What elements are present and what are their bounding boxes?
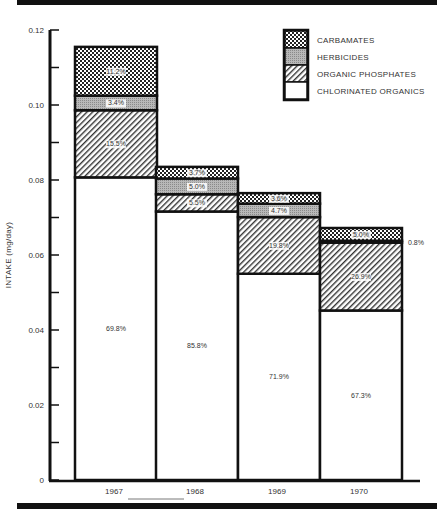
bars-group: 69.8%15.5%3.4%11.2%85.8%5.5%5.0%3.7%71.9…	[75, 47, 424, 480]
bar-1969: 71.9%19.8%4.7%3.6%	[238, 193, 320, 480]
y-tick-label: 0.04	[28, 326, 44, 335]
bottom-border-bar	[17, 503, 437, 509]
legend-swatch-diagonal-hatch	[285, 65, 307, 82]
segment-percent-label: 3.6%	[271, 195, 287, 202]
bar-1967: 69.8%15.5%3.4%11.2%	[75, 47, 157, 480]
segment-percent-label: 26.9%	[351, 273, 371, 280]
y-tick-label: 0.10	[28, 101, 44, 110]
legend-swatch-cross-hatch	[285, 31, 307, 48]
y-tick-label: 0.02	[28, 401, 44, 410]
segment-percent-label: 15.5%	[106, 140, 126, 147]
segment-percent-label: 69.8%	[106, 325, 126, 332]
y-tick-label: 0	[40, 476, 45, 485]
y-tick-label: 0.08	[28, 176, 44, 185]
legend-label: CARBAMATES	[317, 36, 375, 45]
bar-1970: 67.3%26.9%0.8%5.0%	[320, 228, 424, 480]
stacked-bar-chart: 00.020.040.060.080.100.12INTAKE (mg/day)…	[0, 0, 448, 513]
x-axis: 1967196819691970	[49, 481, 420, 499]
segment-percent-label: 5.0%	[189, 183, 205, 190]
x-tick-label: 1967	[105, 487, 123, 496]
segment-percent-label: 19.8%	[269, 242, 289, 249]
legend-swatch-white	[285, 82, 307, 99]
y-tick-label: 0.12	[28, 26, 44, 35]
legend: CARBAMATESHERBICIDESORGANIC PHOSPHATESCH…	[284, 30, 425, 100]
segment-percent-label: 5.0%	[353, 231, 369, 238]
segment-percent-label: 0.8%	[408, 239, 424, 246]
legend-swatch-gray-stipple	[285, 48, 307, 65]
segment-percent-label: 71.9%	[269, 373, 289, 380]
x-tick-label: 1969	[268, 487, 286, 496]
bar-1968: 85.8%5.5%5.0%3.7%	[156, 167, 238, 480]
y-axis-title: INTAKE (mg/day)	[4, 222, 13, 289]
segment-percent-label: 3.7%	[189, 169, 205, 176]
y-axis: 00.020.040.060.080.100.12INTAKE (mg/day)	[4, 26, 59, 485]
x-tick-label: 1970	[350, 487, 368, 496]
legend-label: HERBICIDES	[317, 53, 369, 62]
segment-percent-label: 5.5%	[189, 199, 205, 206]
segment-percent-label: 11.2%	[106, 68, 125, 75]
legend-label: CHLORINATED ORGANICS	[317, 87, 425, 96]
legend-label: ORGANIC PHOSPHATES	[317, 70, 416, 79]
segment-percent-label: 3.4%	[108, 99, 124, 106]
segment-percent-label: 85.8%	[187, 342, 207, 349]
segment-percent-label: 67.3%	[351, 392, 371, 399]
segment-percent-label: 4.7%	[271, 207, 287, 214]
x-tick-label: 1968	[186, 487, 204, 496]
y-tick-label: 0.06	[28, 251, 44, 260]
